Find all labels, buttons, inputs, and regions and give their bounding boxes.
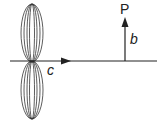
label-point-p: P (120, 1, 129, 17)
lower-lobe (21, 61, 43, 119)
axis-arrowhead-icon (61, 58, 71, 65)
upper-lobe (21, 4, 43, 62)
label-b: b (130, 31, 138, 47)
vertical-arrowhead-icon (122, 17, 129, 27)
label-c: c (47, 62, 54, 78)
diagram-canvas: P b c (0, 0, 165, 125)
